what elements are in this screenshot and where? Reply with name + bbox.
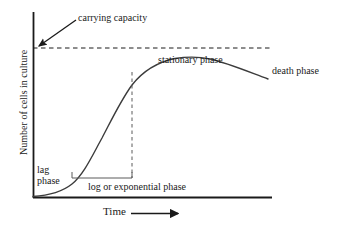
annotation-stationary-phase: stationary phase: [158, 55, 223, 66]
annotation-log-phase: log or exponential phase: [88, 182, 186, 193]
annotation-death-phase: death phase: [272, 66, 319, 77]
annotation-lag-phase-line2: phase: [37, 176, 60, 187]
annotation-lag-phase: lag phase: [37, 165, 60, 187]
y-axis-label: Number of cells in culture: [19, 27, 30, 177]
annotation-carrying-capacity: carrying capacity: [78, 13, 147, 24]
x-axis-label: Time: [103, 206, 126, 218]
growth-curve-svg: [0, 0, 337, 229]
growth-curve-figure: Number of cells in culture carrying capa…: [0, 0, 337, 229]
carrying-capacity-arrow-icon: [39, 20, 76, 46]
growth-curve-path: [33, 57, 268, 196]
